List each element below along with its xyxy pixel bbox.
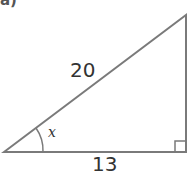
angle-label: x: [48, 124, 56, 140]
base-label: 13: [92, 152, 117, 176]
triangle-shape: [4, 15, 186, 152]
right-angle-marker: [175, 141, 186, 152]
triangle-diagram: [0, 0, 189, 176]
angle-arc: [36, 128, 43, 152]
hypotenuse-label: 20: [70, 58, 95, 82]
